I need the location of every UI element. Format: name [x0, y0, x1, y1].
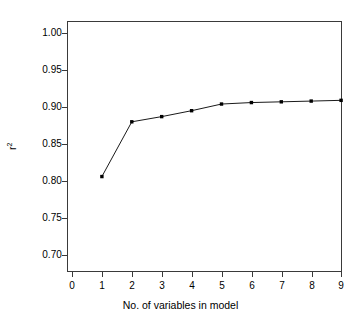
x-axis-title: No. of variables in model: [0, 299, 361, 311]
y-axis-title: r2: [4, 126, 19, 166]
data-point-marker: [100, 175, 103, 178]
series-markers-r2: [100, 99, 343, 179]
data-point-marker: [130, 120, 133, 123]
y-axis-title-exponent: 2: [6, 143, 13, 147]
y-axis-title-base: r: [6, 146, 18, 150]
chart-figure: 1.00 0.95 0.90 0.85 0.80 0.75 0.70 0 1 2…: [0, 0, 361, 324]
data-point-marker: [220, 102, 223, 105]
data-point-marker: [250, 101, 253, 104]
data-series-layer: [0, 0, 361, 324]
data-point-marker: [280, 100, 283, 103]
data-point-marker: [190, 109, 193, 112]
series-line-r2: [102, 100, 341, 176]
data-point-marker: [339, 99, 342, 102]
data-point-marker: [310, 99, 313, 102]
data-point-marker: [160, 115, 163, 118]
